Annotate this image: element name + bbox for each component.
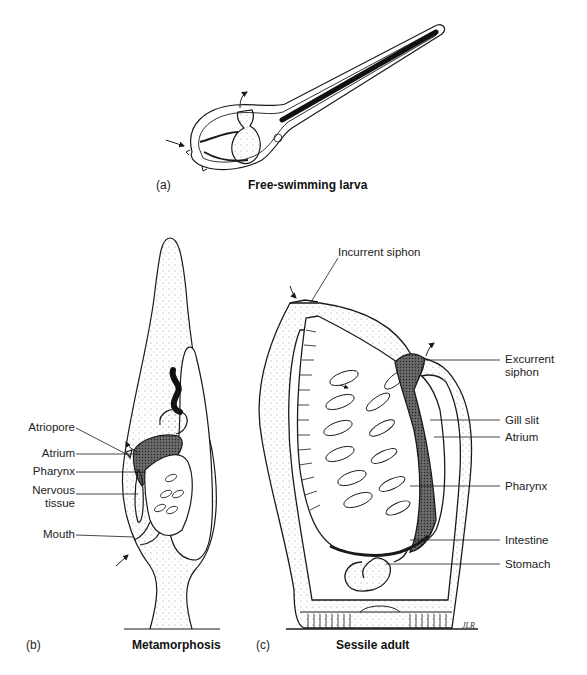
label-intestine: Intestine — [505, 534, 548, 547]
label-nervous-tissue: Nervous tissue — [32, 484, 75, 510]
label-excurrent-siphon: Excurrent siphon — [505, 353, 554, 379]
label-pharynx-b: Pharynx — [33, 465, 75, 478]
label-mouth: Mouth — [43, 528, 75, 541]
panel-c-caption: Sessile adult — [336, 638, 409, 652]
label-gill-slit: Gill slit — [505, 414, 539, 427]
label-atrium-c: Atrium — [505, 431, 538, 444]
metamorphosis-drawing — [76, 238, 220, 629]
panel-b-caption: Metamorphosis — [132, 638, 221, 652]
label-atrium-b: Atrium — [42, 447, 75, 460]
panel-c-letter: (c) — [256, 638, 270, 652]
label-stomach: Stomach — [505, 558, 550, 571]
panel-a-caption: Free-swimming larva — [248, 178, 367, 192]
label-incurrent-siphon: Incurrent siphon — [338, 246, 420, 259]
label-pharynx-c: Pharynx — [505, 480, 547, 493]
tunicate-figure: JLR (a) Free-swimming larva Atriopore At… — [0, 0, 587, 675]
panel-b-letter: (b) — [26, 638, 41, 652]
adult-drawing: JLR — [259, 258, 500, 630]
larva-drawing — [166, 25, 444, 171]
panel-a-letter: (a) — [156, 178, 171, 192]
svg-text:JLR: JLR — [462, 621, 475, 630]
label-atriopore: Atriopore — [28, 421, 75, 434]
figure-artwork: JLR — [0, 0, 587, 675]
